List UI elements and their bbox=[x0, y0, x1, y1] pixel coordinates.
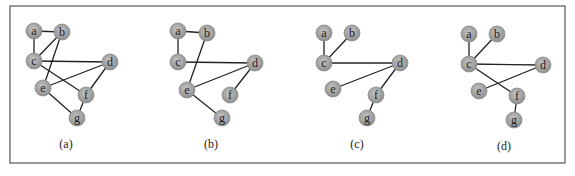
edge-c-d bbox=[178, 62, 255, 63]
node-label: e bbox=[40, 81, 45, 95]
node-label: f bbox=[228, 88, 232, 102]
node-a: a bbox=[170, 23, 186, 39]
node-label: b bbox=[494, 27, 500, 41]
node-g: g bbox=[69, 110, 85, 126]
edge-c-d bbox=[469, 64, 543, 65]
node-label: f bbox=[515, 89, 519, 103]
node-label: d bbox=[540, 58, 546, 72]
node-label: a bbox=[175, 24, 181, 38]
edge-e-d bbox=[479, 65, 543, 91]
node-a: a bbox=[26, 23, 42, 39]
node-label: e bbox=[330, 82, 335, 96]
node-e: e bbox=[325, 81, 341, 97]
node-label: f bbox=[374, 88, 378, 102]
graph-caption: (c) bbox=[350, 137, 363, 151]
node-d: d bbox=[535, 57, 551, 73]
node-f: f bbox=[78, 87, 94, 103]
node-b: b bbox=[54, 24, 70, 40]
edge-b-e bbox=[187, 33, 207, 90]
graph-caption: (b) bbox=[204, 137, 218, 151]
node-label: g bbox=[511, 113, 517, 127]
node-label: c bbox=[31, 54, 36, 68]
node-label: d bbox=[397, 56, 403, 70]
graph-b: abcdefg(b) bbox=[170, 23, 263, 151]
node-label: e bbox=[184, 83, 189, 97]
node-f: f bbox=[509, 88, 525, 104]
node-label: g bbox=[219, 111, 225, 125]
node-e: e bbox=[471, 83, 487, 99]
node-c: c bbox=[461, 56, 477, 72]
node-b: b bbox=[199, 25, 215, 41]
node-label: a bbox=[466, 27, 472, 41]
node-c: c bbox=[170, 54, 186, 70]
node-label: b bbox=[59, 25, 65, 39]
node-c: c bbox=[26, 53, 42, 69]
node-label: c bbox=[321, 56, 326, 70]
node-label: a bbox=[31, 24, 37, 38]
node-g: g bbox=[214, 110, 230, 126]
node-b: b bbox=[344, 25, 360, 41]
node-label: g bbox=[74, 111, 80, 125]
graph-caption: (a) bbox=[59, 137, 72, 151]
node-c: c bbox=[316, 55, 332, 71]
node-label: b bbox=[204, 26, 210, 40]
graph-figure: abcdefg(a)abcdefg(b)abcdefg(c)abcdefg(d) bbox=[0, 0, 575, 176]
graph-caption: (d) bbox=[497, 139, 511, 153]
node-label: b bbox=[349, 26, 355, 40]
node-a: a bbox=[461, 26, 477, 42]
node-e: e bbox=[35, 80, 51, 96]
graphs-layer: abcdefg(a)abcdefg(b)abcdefg(c)abcdefg(d) bbox=[26, 23, 551, 153]
node-a: a bbox=[316, 25, 332, 41]
node-e: e bbox=[179, 82, 195, 98]
node-g: g bbox=[506, 112, 522, 128]
node-label: e bbox=[476, 84, 481, 98]
node-f: f bbox=[222, 87, 238, 103]
node-d: d bbox=[247, 55, 263, 71]
graph-c: abcdefg(c) bbox=[316, 25, 408, 151]
node-g: g bbox=[359, 110, 375, 126]
node-label: c bbox=[466, 57, 471, 71]
node-f: f bbox=[368, 87, 384, 103]
node-label: f bbox=[84, 88, 88, 102]
node-label: a bbox=[321, 26, 327, 40]
node-label: d bbox=[252, 56, 258, 70]
graph-d: abcdefg(d) bbox=[461, 26, 551, 153]
node-b: b bbox=[489, 26, 505, 42]
node-label: g bbox=[364, 111, 370, 125]
node-d: d bbox=[392, 55, 408, 71]
node-d: d bbox=[102, 54, 118, 70]
node-label: d bbox=[107, 55, 113, 69]
node-label: c bbox=[175, 55, 180, 69]
edge-b-e bbox=[43, 32, 62, 88]
graph-a: abcdefg(a) bbox=[26, 23, 118, 151]
edge-c-d bbox=[34, 61, 110, 62]
